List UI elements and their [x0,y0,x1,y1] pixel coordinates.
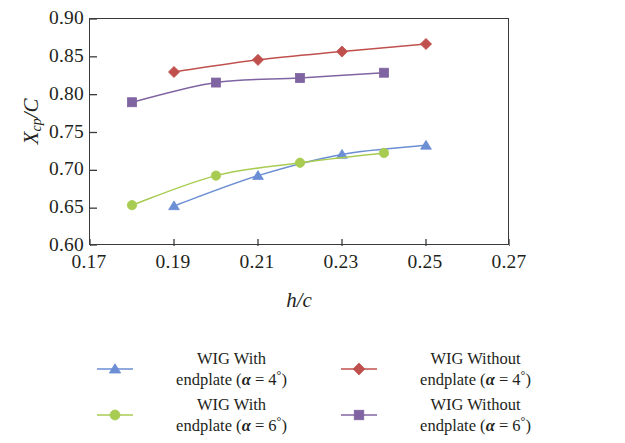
x-axis-tick-labels: 0.170.190.210.230.250.27 [89,252,509,278]
legend-label: WIG Withendplate (α = 6°) [142,395,321,436]
data-marker-square [128,98,137,107]
plot-area [89,18,509,245]
data-series-line [174,44,426,72]
x-tick-label: 0.23 [301,252,381,272]
legend-marker-circle [95,405,135,425]
data-marker-square [354,410,364,420]
legend-entry: WIG Withendplate (α = 4°) [95,347,321,391]
data-marker-diamond [252,54,263,65]
data-marker-diamond [168,66,179,77]
legend-label-line2: endplate (α = 6°) [386,414,565,435]
x-tick-label: 0.25 [385,252,465,272]
data-marker-diamond [336,46,347,57]
x-tick-label: 0.19 [133,252,213,272]
data-series [128,68,389,107]
data-marker-triangle [421,140,432,149]
y-tick-label: 0.65 [22,197,84,217]
legend-label-line2: endplate (α = 4°) [142,368,321,389]
y-tick-label: 0.75 [22,122,84,142]
x-tick-label: 0.21 [217,252,297,272]
data-series [169,140,432,209]
chart-figure: Xcp/C 0.600.650.700.750.800.850.90 0.170… [0,0,625,443]
legend-label: WIG Withoutendplate (α = 6°) [386,395,565,436]
y-tick-label: 0.85 [22,46,84,66]
legend-label-line2: endplate (α = 6°) [142,414,321,435]
legend-label-line1: WIG With [197,349,266,368]
data-marker-circle [379,148,388,157]
data-marker-square [296,74,305,83]
chart-legend: WIG Withendplate (α = 4°)WIG Withoutendp… [95,347,565,437]
data-marker-square [212,78,221,87]
data-series [168,38,431,77]
data-marker-circle [211,171,220,180]
y-tick-label: 0.70 [22,159,84,179]
data-marker-square [380,68,389,77]
legend-label: WIG Withendplate (α = 4°) [142,349,321,390]
legend-label-line2: endplate (α = 4°) [386,368,565,389]
data-marker-diamond [353,363,365,375]
legend-entry: WIG Withoutendplate (α = 4°) [339,347,565,391]
data-marker-circle [295,158,304,167]
legend-entry: WIG Withendplate (α = 6°) [95,393,321,437]
x-axis-title: h/c [89,288,509,313]
legend-marker-square [339,405,379,425]
legend-marker-triangle [95,359,135,379]
x-tick-label: 0.17 [49,252,129,272]
data-marker-circle [127,200,136,209]
y-tick-label: 0.80 [22,84,84,104]
legend-label-line1: WIG Without [430,395,520,414]
x-tick-label: 0.27 [469,252,549,272]
y-tick-label: 0.90 [22,8,84,28]
legend-label: WIG Withoutendplate (α = 4°) [386,349,565,390]
legend-marker-diamond [339,359,379,379]
data-marker-diamond [420,38,431,49]
legend-label-line1: WIG With [197,395,266,414]
plot-canvas [90,19,510,246]
data-marker-circle [110,410,120,420]
y-axis-tick-labels: 0.600.650.700.750.800.850.90 [14,0,84,263]
legend-label-line1: WIG Without [430,349,520,368]
data-series-line [132,73,384,103]
legend-entry: WIG Withoutendplate (α = 6°) [339,393,565,437]
